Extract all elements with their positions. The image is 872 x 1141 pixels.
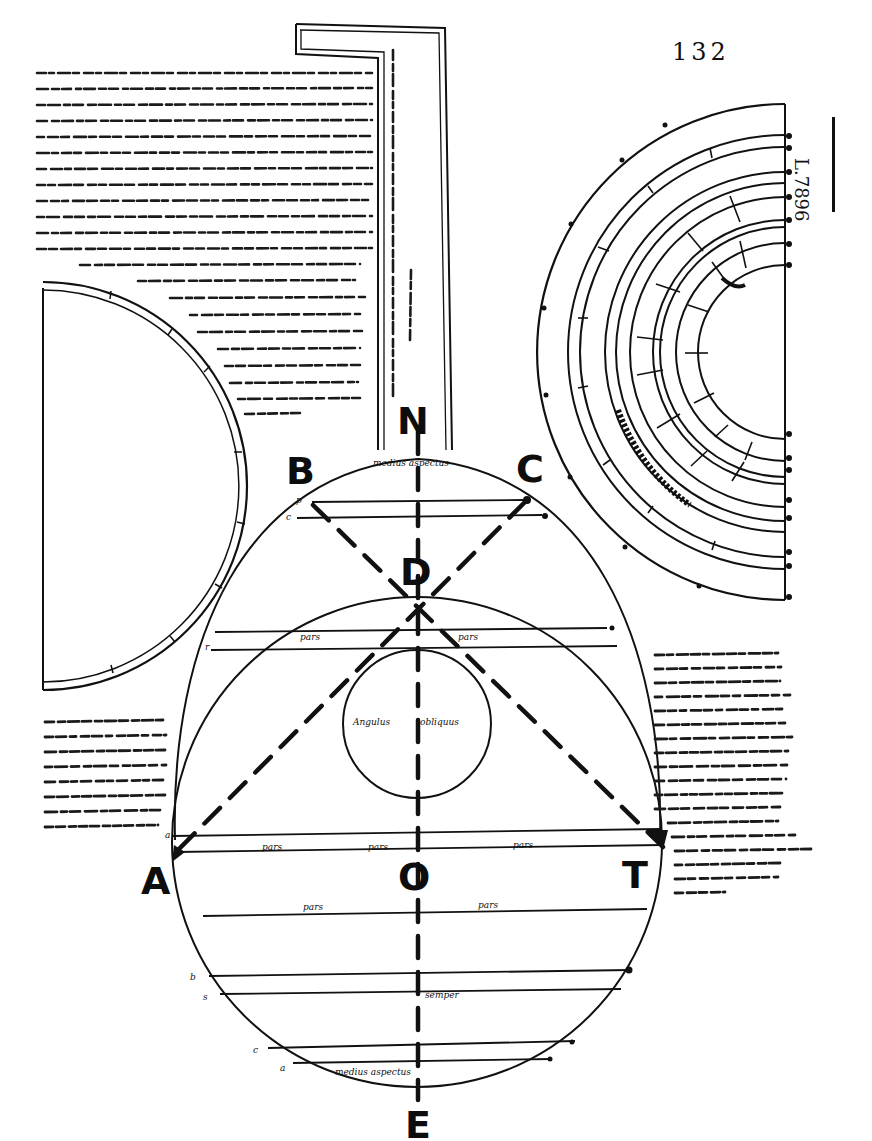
annotation-inner-circle-right: obliquus <box>420 717 459 727</box>
left-semicircle <box>43 282 247 690</box>
point-label-t: T <box>622 856 648 894</box>
point-label-e: E <box>405 1106 431 1141</box>
point-label-c: C <box>516 450 544 488</box>
manuscript-diagram <box>0 0 872 1141</box>
point-label-o: O <box>398 858 430 896</box>
annotation-lower-band-right: pars <box>478 900 498 910</box>
point-label-n: N <box>397 402 429 440</box>
point-label-d: D <box>400 553 432 591</box>
annotation-diameter-left: pars <box>262 842 282 852</box>
annotation-diameter-center: pars <box>368 842 388 852</box>
annotation-top-cap: medius aspectus <box>373 458 449 468</box>
text-block-right-margin <box>655 653 812 893</box>
annotation-lower-band-left: pars <box>303 902 323 912</box>
point-label-a: A <box>141 862 170 900</box>
text-block-left-margin <box>45 720 166 827</box>
margin-letter: a <box>165 830 170 840</box>
margin-letter: s <box>203 992 208 1002</box>
annotation-bottom-cap: medius aspectus <box>335 1067 411 1077</box>
margin-letter: a <box>280 1063 285 1073</box>
margin-letter: b <box>190 972 196 982</box>
annotation-lower-center: semper <box>425 990 459 1000</box>
annotation-diameter-right: pars <box>513 840 533 850</box>
point-label-b: B <box>286 452 315 490</box>
margin-letter: p <box>296 495 302 505</box>
dashed-construction-lines <box>173 432 663 1100</box>
annotation-upper-band-left: pars <box>300 632 320 642</box>
annotation-inner-circle-left: Angulus <box>353 717 390 727</box>
margin-letter: c <box>253 1045 258 1055</box>
annotation-upper-band-right: pars <box>458 632 478 642</box>
margin-letter: c <box>286 512 291 522</box>
ring-tick-dots <box>542 123 793 601</box>
right-concentric-rings <box>537 104 792 600</box>
text-block-vertical-column <box>393 50 411 400</box>
margin-letter: r <box>205 642 209 652</box>
